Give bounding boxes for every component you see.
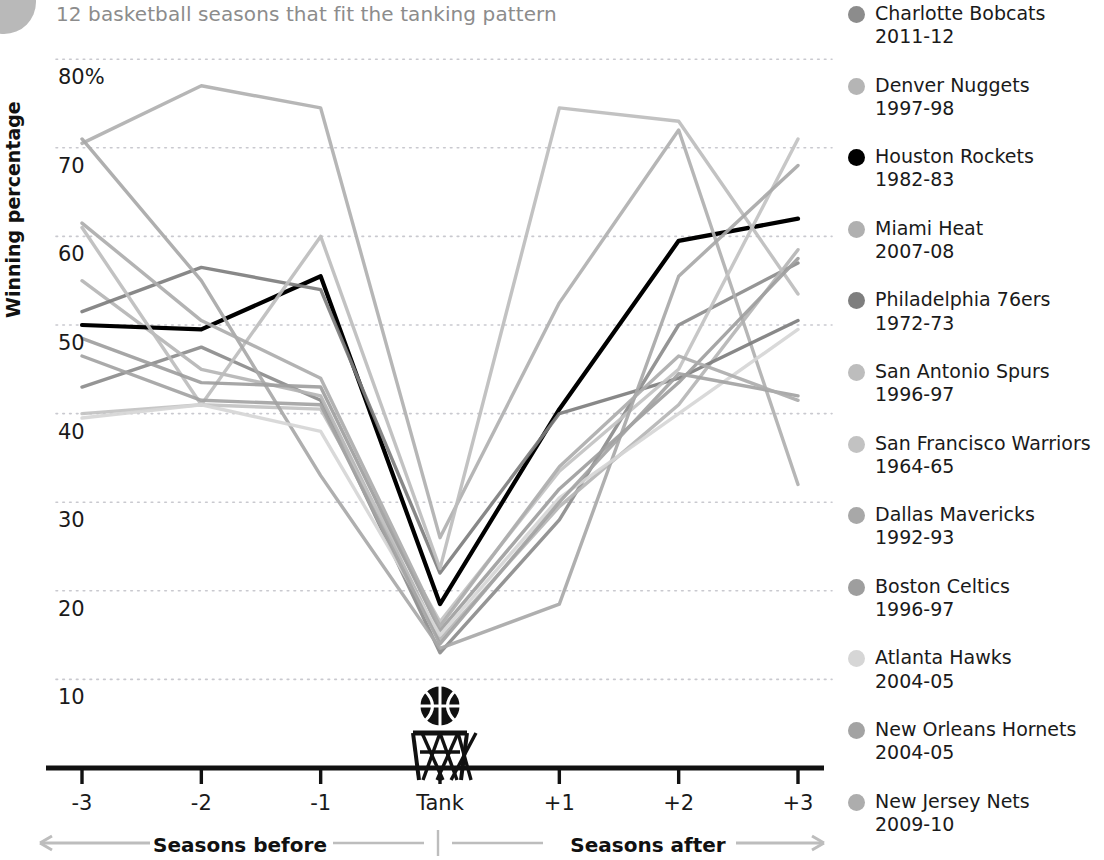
x-axis-tick-label: +3 [783,791,814,815]
line-chart-svg [0,0,840,860]
legend-team-name: Boston Celtics [875,575,1010,598]
legend-item[interactable]: Houston Rockets1982-83 [848,145,1104,191]
legend-color-dot-icon [848,794,865,811]
legend-team-name: Philadelphia 76ers [875,288,1050,311]
x-axis-tick-label: -1 [310,791,331,815]
legend-season: 1996-97 [875,598,1010,621]
legend-team-name: Dallas Mavericks [875,503,1035,526]
x-axis-tick-label: Tank [416,791,464,815]
legend-season: 1982-83 [875,168,1034,191]
legend-text: Miami Heat2007-08 [875,217,983,263]
series-line [82,267,798,573]
x-axis-tick-label: +2 [663,791,694,815]
legend-color-dot-icon [848,149,865,166]
legend-text: Denver Nuggets1997-98 [875,74,1030,120]
legend-text: Dallas Mavericks1992-93 [875,503,1035,549]
legend-item[interactable]: Charlotte Bobcats2011-12 [848,2,1104,48]
legend-color-dot-icon [848,78,865,95]
legend-season: 1972-73 [875,312,1050,335]
legend-season: 2007-08 [875,240,983,263]
legend-team-name: Charlotte Bobcats [875,2,1045,25]
legend-season: 1964-65 [875,455,1091,478]
legend-season: 2011-12 [875,25,1045,48]
legend-color-dot-icon [848,6,865,23]
legend-text: Charlotte Bobcats2011-12 [875,2,1045,48]
y-axis-tick-label: 60 [58,242,85,266]
x-axis-tick-label: +1 [544,791,575,815]
legend-team-name: Miami Heat [875,217,983,240]
legend-item[interactable]: Dallas Mavericks1992-93 [848,503,1104,549]
legend-text: New Orleans Hornets2004-05 [875,718,1076,764]
legend-season: 2009-10 [875,813,1030,836]
legend-team-name: New Orleans Hornets [875,718,1076,741]
legend-item[interactable]: New Orleans Hornets2004-05 [848,718,1104,764]
legend-color-dot-icon [848,722,865,739]
legend-color-dot-icon [848,507,865,524]
legend-team-name: Atlanta Hawks [875,646,1012,669]
legend-team-name: Denver Nuggets [875,74,1030,97]
legend-item[interactable]: Boston Celtics1996-97 [848,575,1104,621]
x-axis-tick-label: -3 [72,791,93,815]
legend-item[interactable]: Miami Heat2007-08 [848,217,1104,263]
legend-color-dot-icon [848,436,865,453]
legend-item[interactable]: Philadelphia 76ers1972-73 [848,288,1104,334]
y-axis-tick-label: 50 [58,331,85,355]
legend-item[interactable]: Atlanta Hawks2004-05 [848,646,1104,692]
legend-text: Boston Celtics1996-97 [875,575,1010,621]
legend-color-dot-icon [848,292,865,309]
series-line [82,259,798,631]
legend-text: San Antonio Spurs1996-97 [875,360,1050,406]
y-axis-tick-label: 40 [58,420,85,444]
series-lines [82,86,798,653]
chart-page: 12 basketball seasons that fit the tanki… [0,0,1104,860]
caption-seasons-after: Seasons after [570,833,725,857]
y-axis-tick-label: 20 [58,597,85,621]
plot-area [0,0,840,860]
legend-color-dot-icon [848,221,865,238]
legend-team-name: San Antonio Spurs [875,360,1050,383]
legend-item[interactable]: San Antonio Spurs1996-97 [848,360,1104,406]
legend-season: 1996-97 [875,383,1050,406]
basketball-icon [419,685,461,727]
legend-text: San Francisco Warriors1964-65 [875,432,1091,478]
series-line [82,219,798,604]
legend-color-dot-icon [848,364,865,381]
legend-color-dot-icon [848,579,865,596]
legend-season: 1992-93 [875,526,1035,549]
y-axis-tick-label: 10 [58,685,85,709]
caption-seasons-before: Seasons before [153,833,327,857]
legend-season: 1997-98 [875,97,1030,120]
y-axis-label: Winning percentage [2,78,24,318]
legend-team-name: New Jersey Nets [875,790,1030,813]
legend-text: New Jersey Nets2009-10 [875,790,1030,836]
legend-color-dot-icon [848,650,865,667]
x-axis [46,768,824,784]
legend-item[interactable]: New Jersey Nets2009-10 [848,790,1104,836]
legend-text: Atlanta Hawks2004-05 [875,646,1012,692]
legend-team-name: Houston Rockets [875,145,1034,168]
legend-text: Philadelphia 76ers1972-73 [875,288,1050,334]
legend-team-name: San Francisco Warriors [875,432,1091,455]
legend-item[interactable]: San Francisco Warriors1964-65 [848,432,1104,478]
series-line [82,250,798,640]
series-line [82,139,798,622]
y-axis-tick-label: 80% [58,65,105,89]
legend-season: 2004-05 [875,670,1012,693]
series-line [82,263,798,653]
series-line [82,108,798,569]
legend: Charlotte Bobcats2011-12Denver Nuggets19… [848,0,1104,860]
basketball-hoop-icon [413,733,476,780]
legend-season: 2004-05 [875,741,1076,764]
x-axis-tick-label: -2 [191,791,212,815]
legend-text: Houston Rockets1982-83 [875,145,1034,191]
legend-item[interactable]: Denver Nuggets1997-98 [848,74,1104,120]
y-axis-tick-label: 30 [58,508,85,532]
y-axis-tick-label: 70 [58,154,85,178]
